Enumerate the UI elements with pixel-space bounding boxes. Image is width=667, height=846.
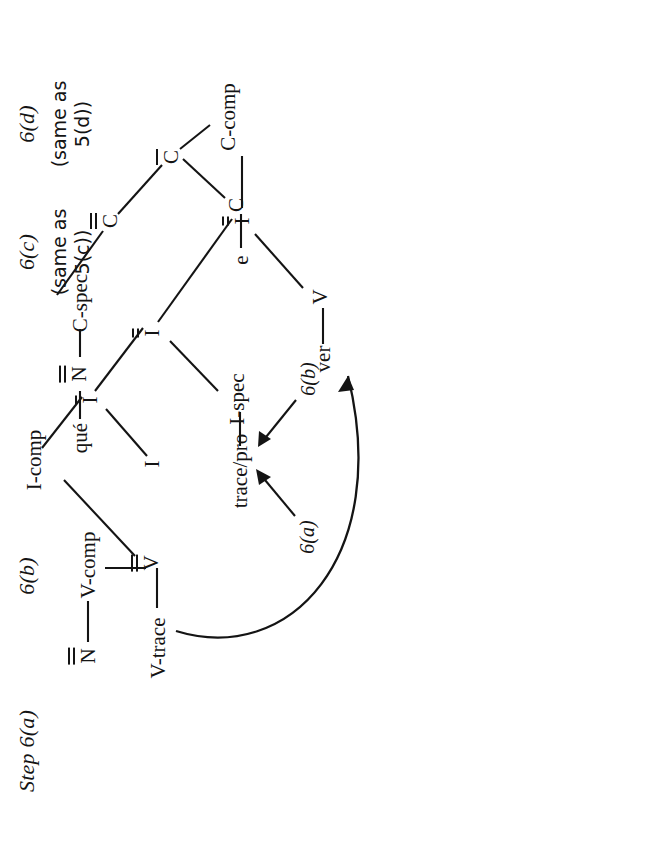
caption-6b: 6(b) (14, 557, 40, 594)
rotated-figure-wrapper: Step 6(a) 6(b) 6(c) 6(d) (same as 5(c)) … (0, 0, 667, 846)
node-i-bar: I (79, 397, 101, 404)
node-i-spec: I-spec (227, 373, 248, 424)
node-ip-top: I (231, 218, 253, 225)
edge-cp-to-cbar (118, 165, 162, 214)
caption-6d: 6(d) (14, 105, 40, 142)
edge-ip-to-iplow (158, 219, 232, 322)
node-v-left: V (310, 289, 331, 304)
node-que: qué (70, 423, 91, 453)
edge-iplow-to-ispec (170, 341, 218, 391)
node-v-left-label: V (308, 289, 332, 304)
node-i-comp: I-comp (24, 430, 45, 491)
node-n-obj-label: N (77, 648, 99, 663)
node-e-label: e (229, 255, 253, 264)
node-c-head: C (226, 198, 247, 212)
node-vp: V (140, 555, 162, 570)
same-as-5d-line1: (same as (48, 81, 71, 168)
node-c-spec-label: C-spec (68, 274, 92, 332)
node-c-bar-label: C (160, 150, 182, 164)
tree-edges (0, 0, 667, 846)
node-n-spec: N (68, 366, 90, 381)
edge-ip-to-v (255, 234, 303, 288)
node-que-label: qué (68, 423, 92, 453)
node-c-head-label: C (224, 198, 248, 212)
node-n-spec-label: N (68, 366, 90, 381)
pointer-6b-line (262, 400, 296, 442)
node-i-bar-label: I (79, 397, 101, 404)
node-trace-pro: trace/pro (230, 434, 251, 509)
node-i-head: I (142, 461, 163, 468)
node-trace-pro-label: trace/pro (228, 434, 252, 509)
node-vp-label: V (140, 555, 162, 570)
node-cp-label: C (99, 214, 121, 228)
node-ip-low-label: I (141, 330, 163, 337)
node-c-spec: C-spec (70, 274, 91, 332)
node-v-comp: V-comp (78, 532, 99, 599)
node-c-comp-label: C-comp (216, 83, 240, 151)
movement-arrow-path (176, 376, 358, 637)
annotation-6a: 6(a) (296, 520, 319, 553)
node-e: e (231, 255, 252, 264)
node-c-bar: C (160, 150, 182, 164)
node-v-comp-label: V-comp (76, 532, 100, 599)
node-c-comp: C-comp (218, 83, 239, 151)
node-v-trace: V-trace (148, 617, 169, 678)
pointer-6a-head (256, 469, 271, 485)
annotation-6b: 6(b) (297, 362, 320, 395)
movement-arrow-head (338, 376, 354, 392)
caption-6c: 6(c) (14, 234, 40, 270)
caption-step-6a: Step 6(a) (14, 710, 40, 792)
node-cp: C (99, 214, 121, 228)
node-i-head-label: I (140, 461, 164, 468)
node-i-spec-label: I-spec (225, 373, 249, 424)
node-ip-top-label: I (231, 218, 253, 225)
node-i-comp-label: I-comp (22, 430, 46, 491)
node-v-trace-label: V-trace (146, 617, 170, 678)
figure-canvas: Step 6(a) 6(b) 6(c) 6(d) (same as 5(c)) … (0, 0, 667, 846)
node-n-obj: N (77, 648, 99, 663)
edge-iplow-to-ibar (95, 328, 143, 391)
node-ip-low: I (141, 330, 163, 337)
same-as-5d: (same as 5(d)) (48, 81, 94, 168)
edge-ibar-to-ihead (106, 409, 147, 456)
edge-cbar-to-chead (183, 159, 225, 198)
same-as-5d-line2: 5(d)) (71, 81, 94, 168)
edge-cbar-to-ccomp (180, 125, 210, 149)
